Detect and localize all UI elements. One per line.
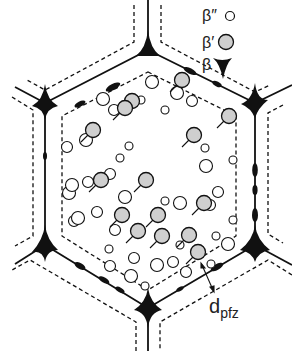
beta-double-prime-particle <box>116 154 124 162</box>
beta-double-prime-particle <box>97 93 110 106</box>
beta-double-prime-particle <box>125 142 133 150</box>
beta-double-prime-particle <box>161 197 169 205</box>
small-open-circle-icon <box>226 12 235 21</box>
beta-double-prime-particle <box>171 87 184 100</box>
legend: β″ β′ β <box>202 7 235 79</box>
beta-double-prime-particle <box>161 106 169 114</box>
beta-prime-particle <box>192 196 212 216</box>
beta-double-prime-particle <box>105 245 113 253</box>
beta-double-prime-particle <box>141 282 149 290</box>
black-cusp-icon <box>213 58 232 79</box>
beta-prime-particle <box>146 208 166 228</box>
beta-double-prime-particle <box>229 156 237 164</box>
beta-double-prime-particle <box>129 253 140 264</box>
pfz-grain-diagram: dpfz β″ β′ β <box>0 0 292 351</box>
beta-double-prime-particle <box>207 260 215 268</box>
beta-prime-particle <box>217 109 237 129</box>
legend-item-beta-double-prime: β″ <box>202 7 235 24</box>
beta-double-prime-particle <box>213 187 224 198</box>
shaded-circle-icon <box>219 35 234 50</box>
beta-double-prime-particle <box>168 257 179 268</box>
svg-text:β″: β″ <box>202 7 217 24</box>
svg-text:β: β <box>202 56 211 73</box>
beta-double-prime-particle <box>66 179 79 192</box>
beta-prime-particle <box>110 208 130 228</box>
beta-double-prime-particle <box>92 207 103 218</box>
beta-double-prime-particle <box>146 76 159 89</box>
beta-double-prime-particle <box>229 216 237 224</box>
legend-item-beta-prime: β′ <box>202 34 234 51</box>
beta-prime-particle <box>186 245 206 265</box>
beta-double-prime-particle <box>176 241 184 249</box>
beta-double-prime-particle <box>200 160 213 173</box>
beta-double-prime-particle <box>181 267 192 278</box>
dpfz-label: dpfz <box>209 295 239 321</box>
beta-double-prime-particle <box>174 197 187 210</box>
beta-double-prime-particle <box>222 238 235 251</box>
beta-double-prime-particle <box>201 144 209 152</box>
svg-text:β′: β′ <box>202 34 214 51</box>
beta-double-prime-particle <box>83 177 94 188</box>
beta-double-prime-particle <box>105 261 116 272</box>
beta-prime-particle <box>126 224 146 244</box>
beta-prime-particle <box>177 228 197 248</box>
beta-double-prime-particle <box>125 270 138 283</box>
beta-prime-particle <box>134 173 154 193</box>
beta-double-prime-particle <box>62 142 73 153</box>
beta-double-prime-particle <box>187 96 198 107</box>
beta-double-prime-particle <box>72 212 85 225</box>
beta-double-prime-particle <box>212 232 220 240</box>
beta-prime-particle <box>150 229 170 249</box>
legend-item-beta: β <box>202 56 232 79</box>
beta-prime-particle <box>182 128 202 148</box>
beta-double-prime-particle <box>151 259 164 272</box>
beta-double-prime-particle <box>119 191 132 204</box>
